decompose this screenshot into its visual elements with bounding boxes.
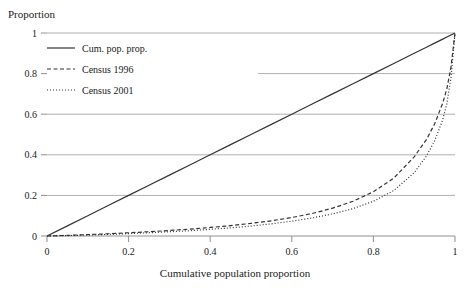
y-tick-label: 0 — [32, 231, 37, 242]
x-tick-label: 0.4 — [204, 246, 217, 257]
y-tick-label: 0.2 — [25, 190, 38, 201]
x-tick-label: 0.2 — [122, 246, 135, 257]
legend-label: Cum. pop. prop. — [82, 43, 147, 54]
x-tick-label: 0 — [45, 246, 50, 257]
y-tick-label: 0.6 — [25, 109, 38, 120]
lorenz-curve-chart: Proportion 00.20.40.60.81 00.20.40.60.81… — [0, 0, 470, 291]
y-tick-label: 1 — [32, 28, 37, 39]
x-tick-label: 0.6 — [286, 246, 299, 257]
chart-background — [0, 0, 470, 291]
y-tick-label: 0.8 — [25, 68, 38, 79]
legend-label: Census 2001 — [82, 85, 133, 96]
legend-label: Census 1996 — [82, 64, 133, 75]
y-tick-label: 0.4 — [25, 149, 38, 160]
y-axis-title: Proportion — [8, 8, 56, 20]
x-tick-label: 0.8 — [367, 246, 380, 257]
x-tick-label: 1 — [453, 246, 458, 257]
chart-container: Proportion 00.20.40.60.81 00.20.40.60.81… — [0, 0, 470, 291]
x-axis-title: Cumulative population proportion — [160, 267, 311, 279]
